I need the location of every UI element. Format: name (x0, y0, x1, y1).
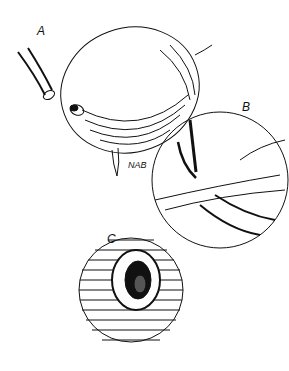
panel-c-inset (79, 238, 183, 342)
artist-signature: NAB (128, 160, 147, 170)
panel-label-b: B (242, 100, 250, 114)
panel-label-c: C (107, 232, 116, 246)
medical-illustration (0, 0, 289, 371)
panel-label-a: A (37, 24, 45, 38)
panel-b-inset (152, 112, 288, 248)
panel-a-bladder (18, 8, 217, 176)
